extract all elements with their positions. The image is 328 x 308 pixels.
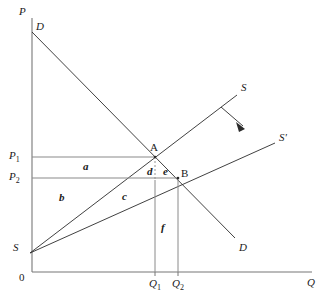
price-tick-p2-text: P xyxy=(9,170,16,182)
quantity-tick-q2-sub: 2 xyxy=(180,283,184,292)
price-tick-p1-sub: 1 xyxy=(16,155,20,164)
region-label-a: a xyxy=(83,161,89,172)
region-label-d: d xyxy=(147,166,153,177)
region-label-c: c xyxy=(122,191,127,202)
quantity-tick-q1-sub: 1 xyxy=(157,283,161,292)
quantity-tick-q1-text: Q xyxy=(149,277,157,289)
demand-curve-label-top: D xyxy=(36,21,44,32)
supply-curve-label: S xyxy=(241,82,247,93)
supply-origin-label: S xyxy=(13,242,19,253)
region-label-e: e xyxy=(163,166,168,177)
diagram-canvas xyxy=(0,0,328,308)
supply-shift-arrow xyxy=(221,107,245,132)
point-b-marker xyxy=(177,177,180,180)
quantity-tick-q2-text: Q xyxy=(172,277,180,289)
quantity-axis-label: Q xyxy=(307,277,315,288)
demand-curve xyxy=(32,32,235,238)
region-label-f: f xyxy=(161,222,165,233)
quantity-tick-q1: Q1 xyxy=(149,278,161,292)
quantity-tick-q2: Q2 xyxy=(172,278,184,292)
supply-shifted-curve-label: S' xyxy=(279,132,287,143)
price-tick-p2-sub: 2 xyxy=(16,176,20,185)
price-tick-p1-text: P xyxy=(9,149,16,161)
supply-demand-figure: P Q 0 D D S S' S A B P1 P2 Q1 Q2 a b c d… xyxy=(0,0,328,308)
point-a-label: A xyxy=(150,142,158,153)
region-label-b: b xyxy=(59,192,65,203)
origin-label: 0 xyxy=(19,272,25,283)
point-a-marker xyxy=(154,156,157,159)
price-tick-p2: P2 xyxy=(9,171,20,185)
demand-curve-label-bottom: D xyxy=(239,242,247,253)
price-tick-p1: P1 xyxy=(9,150,20,164)
price-axis-label: P xyxy=(19,6,26,17)
point-b-label: B xyxy=(181,168,188,179)
